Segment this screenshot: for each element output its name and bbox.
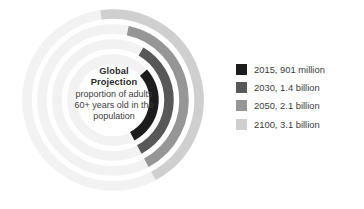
legend-swatch-2100 (236, 119, 247, 130)
legend-swatch-2030 (236, 82, 247, 93)
legend-item-label: 2100, 3.1 billion (254, 119, 320, 130)
legend-swatch-2015 (236, 64, 247, 75)
chart-legend: 2015, 901 million2030, 1.4 billion2050, … (236, 60, 360, 134)
radial-chart-svg (0, 0, 226, 209)
legend-item[interactable]: 2015, 901 million (236, 60, 360, 78)
value-arc-2015[interactable] (132, 73, 154, 137)
radial-bar-chart: Global Projection proportion of adults 6… (0, 0, 226, 209)
legend-item[interactable]: 2050, 2.1 billion (236, 97, 360, 115)
legend-item-label: 2050, 2.1 billion (254, 100, 320, 111)
legend-item[interactable]: 2100, 3.1 billion (236, 115, 360, 133)
legend-item-label: 2030, 1.4 billion (254, 82, 320, 93)
legend-swatch-2050 (236, 100, 247, 111)
legend-item[interactable]: 2030, 1.4 billion (236, 78, 360, 96)
legend-item-label: 2015, 901 million (254, 64, 325, 75)
global-projection-figure: Global Projection proportion of adults 6… (0, 0, 364, 209)
